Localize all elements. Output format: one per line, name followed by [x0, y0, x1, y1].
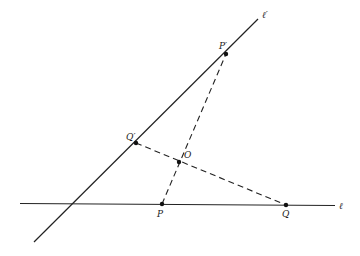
line-l-prime: [34, 19, 258, 242]
point-o-label: O: [184, 150, 192, 160]
segment-q-prime-q: [136, 143, 286, 205]
point-q-label: Q: [282, 209, 290, 219]
line-l-label: ℓ: [339, 201, 343, 211]
segment-p-p-prime: [162, 54, 226, 204]
point-o: [177, 160, 181, 164]
projective-geometry-diagram: ℓ ℓ′ P′ Q′ O P Q: [0, 0, 360, 256]
line-l-prime-label: ℓ′: [262, 10, 268, 20]
point-p-prime-label: P′: [218, 41, 227, 51]
point-q: [284, 203, 288, 207]
point-q-prime-label: Q′: [126, 132, 135, 142]
point-p-prime: [224, 52, 228, 56]
point-p: [160, 202, 164, 206]
point-p-label: P: [156, 209, 164, 219]
